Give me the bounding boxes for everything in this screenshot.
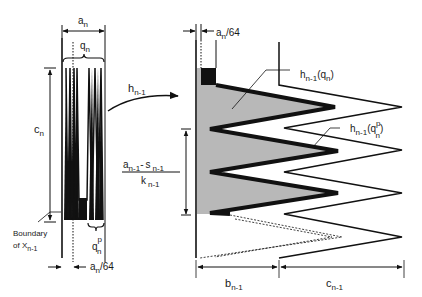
hn1-curved-arrow (108, 96, 178, 111)
cn1-label: cn-1 (326, 277, 344, 292)
hn1-qn-label: hn-1(qn) (300, 69, 334, 83)
right-gap-label: an/64 (216, 27, 240, 41)
hn1-qnp-label: hn-1(qpn) (350, 119, 383, 140)
bn1-label: bn-1 (225, 277, 243, 292)
an-label: an (78, 15, 88, 29)
qn-brace (63, 54, 104, 62)
fraction-denominator: kn-1 (141, 175, 160, 189)
right-figure: an/64 hn-1(qn) hn-1(qpn) bn-1 cn-1 (183, 24, 404, 292)
middle-fraction: an-1-sn-1 kn-1 (122, 129, 191, 215)
boundary-label-line2: of Xn-1 (13, 241, 37, 252)
diagram-canvas: an qn cn Boundary of Xn-1 qpn (0, 0, 422, 297)
qnp-label: qpn (92, 235, 103, 256)
map-arrow: hn-1 (108, 82, 178, 111)
left-black-block (79, 198, 87, 220)
qn-label: qn (80, 40, 90, 54)
cn-label: cn (34, 123, 44, 138)
fraction-numerator: an-1-sn-1 (123, 159, 165, 173)
hn1-map-label: hn-1 (128, 82, 146, 97)
boundary-leader-line (38, 212, 50, 222)
gray-image-region (197, 68, 338, 214)
qnp-brace (88, 223, 104, 231)
left-gap-label: an/64 (90, 261, 114, 275)
left-figure: an qn cn Boundary of Xn-1 qpn (13, 15, 114, 275)
right-black-block (201, 68, 216, 85)
boundary-label-line1: Boundary (13, 229, 47, 238)
